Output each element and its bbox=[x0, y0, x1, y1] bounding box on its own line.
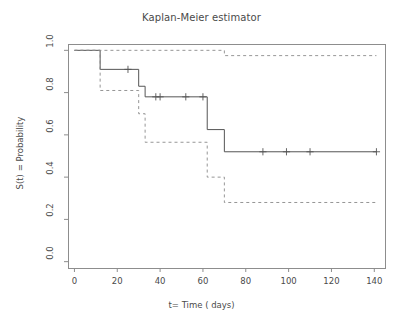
censor-mark bbox=[283, 148, 290, 155]
censor-mark bbox=[373, 148, 380, 155]
y-tick-label: 0.4 bbox=[45, 154, 55, 182]
x-tick-label: 60 bbox=[183, 276, 223, 286]
confidence-band-line bbox=[74, 50, 376, 202]
y-tick-label: 0.6 bbox=[45, 112, 55, 140]
survival-curve-line bbox=[74, 50, 376, 151]
censor-mark bbox=[182, 93, 189, 100]
y-tick-label: 0.0 bbox=[45, 239, 55, 267]
x-tick-label: 80 bbox=[226, 276, 266, 286]
kaplan-meier-plot: Kaplan-Meier estimator S(t) = Probabilit… bbox=[0, 0, 403, 327]
y-tick-label: 0.8 bbox=[45, 70, 55, 98]
x-tick-label: 120 bbox=[311, 276, 351, 286]
x-tick-label: 20 bbox=[97, 276, 137, 286]
censor-mark bbox=[306, 148, 313, 155]
censor-mark bbox=[259, 148, 266, 155]
x-tick-label: 140 bbox=[354, 276, 394, 286]
x-tick-label: 100 bbox=[269, 276, 309, 286]
censor-mark bbox=[199, 93, 206, 100]
censor-mark bbox=[157, 93, 164, 100]
x-tick-label: 0 bbox=[54, 276, 94, 286]
x-tick-label: 40 bbox=[140, 276, 180, 286]
censor-mark bbox=[124, 66, 131, 73]
y-tick-label: 1.0 bbox=[45, 27, 55, 55]
plot-frame bbox=[69, 45, 386, 269]
y-tick-label: 0.2 bbox=[45, 196, 55, 224]
confidence-band-line bbox=[74, 50, 376, 55]
